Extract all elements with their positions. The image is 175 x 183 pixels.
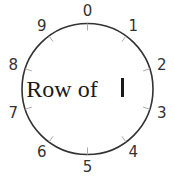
digit-label-2: 2 [157, 56, 167, 74]
digit-label-7: 7 [9, 104, 19, 122]
digit-label-3: 3 [157, 104, 167, 122]
digit-label-8: 8 [9, 56, 19, 74]
tick-mark-4 [122, 136, 126, 142]
tick-mark-2 [143, 69, 150, 71]
tick-mark-6 [49, 136, 53, 142]
tick-mark-7 [25, 107, 32, 109]
digit-label-1: 1 [129, 17, 139, 35]
vertical-bar-glyph [121, 78, 124, 97]
digit-label-0: 0 [83, 2, 93, 20]
tick-mark-8 [25, 69, 32, 71]
digit-dial: 0123456789 Row of [0, 0, 175, 183]
digit-label-9: 9 [37, 17, 47, 35]
tick-mark-9 [49, 36, 53, 42]
digit-label-6: 6 [37, 143, 47, 161]
center-label: Row of [26, 76, 97, 102]
digit-label-5: 5 [83, 158, 93, 176]
digit-label-4: 4 [129, 143, 139, 161]
tick-mark-1 [122, 36, 126, 42]
tick-mark-3 [143, 107, 150, 109]
